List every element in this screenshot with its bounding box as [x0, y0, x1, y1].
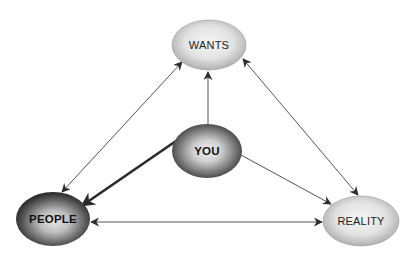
node-reality: REALITY [323, 196, 399, 246]
people-label: PEOPLE [29, 213, 77, 225]
node-wants: WANTS [172, 20, 246, 70]
edge-wants-people [62, 62, 182, 192]
reality-label: REALITY [337, 215, 385, 227]
relationship-diagram: WANTS YOU PEOPLE REALITY [0, 0, 411, 262]
node-people: PEOPLE [16, 192, 90, 246]
edge-you-reality [241, 155, 331, 204]
node-you: YOU [172, 124, 242, 178]
wants-label: WANTS [189, 39, 229, 51]
edge-wants-reality [243, 59, 358, 195]
edge-you-people [83, 141, 176, 205]
you-label: YOU [194, 145, 220, 157]
